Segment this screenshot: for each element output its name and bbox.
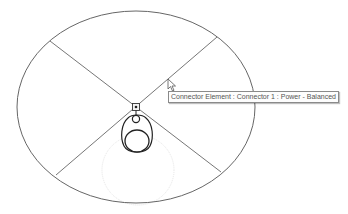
connector-dot (135, 106, 138, 109)
connector-tooltip: Connector Element : Connector 1 : Power … (168, 91, 339, 103)
fixture-small-circle (132, 115, 139, 122)
drawing-svg (0, 0, 348, 214)
arrow-pointer-icon (167, 78, 177, 92)
drawing-canvas[interactable]: Connector Element : Connector 1 : Power … (0, 0, 348, 214)
fixture-lamp-circle (125, 130, 149, 152)
